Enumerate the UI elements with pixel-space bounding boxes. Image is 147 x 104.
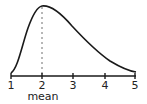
tick-label-1: 1 <box>8 79 15 92</box>
distribution-chart: 1 2 3 4 5 mean <box>0 0 147 104</box>
tick-label-3: 3 <box>70 79 77 92</box>
distribution-curve <box>11 6 136 73</box>
mean-label: mean <box>27 90 58 103</box>
tick-label-4: 4 <box>102 79 109 92</box>
tick-label-5: 5 <box>132 79 139 92</box>
